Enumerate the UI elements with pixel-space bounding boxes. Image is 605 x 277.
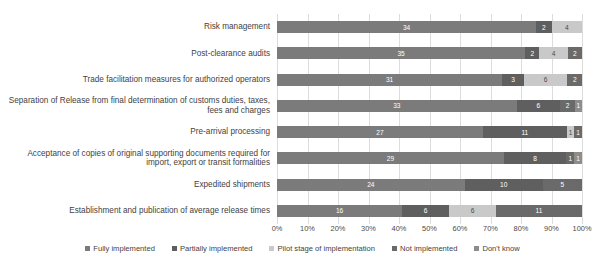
stacked-bar[interactable]: 342400 [277, 21, 582, 33]
bar-row: Trade facilitation measures for authoriz… [0, 68, 605, 92]
bar-segment[interactable]: 1 [566, 152, 574, 164]
axis-tick-label: 60% [453, 224, 468, 233]
axis-tick-label: 80% [514, 224, 529, 233]
stacked-bar[interactable]: 2711110 [277, 126, 582, 138]
axis-tick-label: 30% [361, 224, 376, 233]
bar-segment[interactable]: 6 [402, 205, 449, 217]
bar-segment[interactable]: 10 [465, 179, 543, 191]
legend-swatch-icon [269, 246, 274, 251]
axis-tick-label: 50% [422, 224, 437, 233]
stacked-bar[interactable]: 1666110 [277, 205, 582, 217]
bar-segment[interactable]: 6 [449, 205, 496, 217]
bar-segment[interactable]: 2 [525, 47, 539, 59]
bar-segment[interactable]: 2 [536, 21, 551, 33]
stacked-bar-chart: Risk management342400Post-clearance audi… [0, 0, 605, 277]
bar-segment[interactable]: 1 [567, 126, 575, 138]
bar-segment[interactable]: 1 [574, 126, 582, 138]
x-axis: 0%10%20%30%40%50%60%70%80%90%100% [277, 224, 582, 236]
axis-tick-label: 0% [272, 224, 283, 233]
bar-segment[interactable]: 2 [560, 100, 575, 112]
bar-row: Post-clearance audits352420 [0, 41, 605, 65]
category-label: Establishment and publication of average… [0, 206, 277, 216]
bar-segment[interactable]: 2 [567, 74, 582, 86]
legend-item[interactable]: Not implemented [392, 244, 457, 253]
bar-row: Expedited shipments2410050 [0, 173, 605, 197]
bar-segment[interactable]: 27 [277, 126, 483, 138]
category-label: Expedited shipments [0, 180, 277, 190]
category-label: Trade facilitation measures for authoriz… [0, 75, 277, 85]
bar-segment[interactable]: 11 [496, 205, 582, 217]
bar-segment[interactable]: 2 [568, 47, 582, 59]
legend-label: Don't know [482, 244, 519, 253]
chart-legend: Fully implementedPartially implementedPi… [0, 244, 605, 253]
axis-tick-label: 90% [544, 224, 559, 233]
category-label: Acceptance of copies of original support… [0, 149, 277, 168]
legend-label: Pilot stage of implementation [277, 244, 375, 253]
bar-segment[interactable]: 4 [539, 47, 567, 59]
bar-segment[interactable]: 24 [277, 179, 465, 191]
axis-tick-label: 70% [483, 224, 498, 233]
bar-segment[interactable]: 4 [552, 21, 583, 33]
bar-row: Acceptance of copies of original support… [0, 146, 605, 170]
stacked-bar[interactable]: 2410050 [277, 179, 582, 191]
bar-segment[interactable]: 1 [575, 100, 582, 112]
bar-segment[interactable]: 11 [483, 126, 567, 138]
legend-label: Partially implemented [180, 244, 253, 253]
bar-row: Separation of Release from final determi… [0, 94, 605, 118]
bar-segment[interactable]: 29 [277, 152, 504, 164]
legend-item[interactable]: Partially implemented [172, 244, 253, 253]
bar-segment[interactable]: 33 [277, 100, 517, 112]
bar-row: Establishment and publication of average… [0, 199, 605, 223]
legend-item[interactable]: Don't know [474, 244, 519, 253]
category-label: Pre-arrival processing [0, 127, 277, 137]
bar-rows: Risk management342400Post-clearance audi… [0, 14, 605, 224]
stacked-bar[interactable]: 313620 [277, 74, 582, 86]
category-label: Post-clearance audits [0, 49, 277, 59]
legend-item[interactable]: Fully implemented [85, 244, 155, 253]
legend-label: Not implemented [400, 244, 457, 253]
bar-segment[interactable]: 6 [517, 100, 561, 112]
legend-item[interactable]: Pilot stage of implementation [269, 244, 375, 253]
bar-row: Risk management342400 [0, 15, 605, 39]
legend-swatch-icon [85, 246, 90, 251]
axis-tick-label: 100% [573, 224, 592, 233]
stacked-bar[interactable]: 352420 [277, 47, 582, 59]
bar-segment[interactable]: 34 [277, 21, 536, 33]
bar-segment[interactable]: 3 [502, 74, 524, 86]
bar-segment[interactable]: 5 [543, 179, 582, 191]
axis-tick-label: 40% [392, 224, 407, 233]
axis-tick-label: 20% [331, 224, 346, 233]
category-label: Separation of Release from final determi… [0, 96, 277, 115]
stacked-bar[interactable]: 298011 [277, 152, 582, 164]
axis-tick-label: 10% [300, 224, 315, 233]
bar-segment[interactable]: 1 [574, 152, 582, 164]
bar-segment[interactable]: 35 [277, 47, 525, 59]
bar-segment[interactable]: 31 [277, 74, 502, 86]
bar-row: Pre-arrival processing2711110 [0, 120, 605, 144]
legend-swatch-icon [474, 246, 479, 251]
bar-segment[interactable]: 8 [504, 152, 567, 164]
legend-swatch-icon [392, 246, 397, 251]
bar-segment[interactable]: 16 [277, 205, 402, 217]
bar-segment[interactable]: 6 [524, 74, 568, 86]
legend-label: Fully implemented [93, 244, 155, 253]
category-label: Risk management [0, 22, 277, 32]
stacked-bar[interactable]: 336021 [277, 100, 582, 112]
legend-swatch-icon [172, 246, 177, 251]
plot-area: Risk management342400Post-clearance audi… [0, 14, 605, 224]
